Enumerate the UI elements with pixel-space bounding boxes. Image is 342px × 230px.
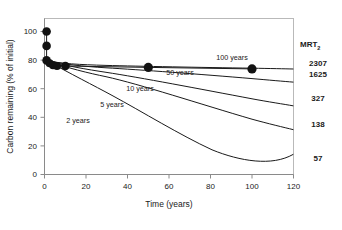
mrt-value: 138 — [311, 120, 325, 129]
y-tick-label: 80 — [28, 56, 37, 65]
curve-label-50-years: 50 years — [166, 68, 194, 77]
mrt-header-text: MRT — [300, 40, 317, 49]
mrt-header-subscript: 2 — [317, 45, 320, 51]
x-tick-label: 60 — [165, 182, 174, 191]
mrt-value: 1625 — [309, 70, 327, 79]
y-tick-label: 60 — [28, 85, 37, 94]
data-point-marker — [53, 62, 61, 70]
curve-label-2-years: 2 years — [66, 116, 90, 125]
y-tick-label: 40 — [28, 113, 37, 122]
data-point-marker — [42, 27, 51, 36]
curve-label-10-years: 10 years — [126, 84, 154, 93]
y-tick-label: 0 — [33, 170, 38, 179]
mrt-value: 327 — [311, 94, 325, 103]
curve-label-100-years: 100 years — [216, 53, 248, 62]
x-tick-label: 20 — [82, 182, 91, 191]
x-tick-label: 0 — [42, 182, 47, 191]
y-axis-title: Carbon remaining (% of initial) — [5, 39, 15, 153]
mrt-value: 2307 — [309, 59, 327, 68]
x-tick-label: 80 — [206, 182, 215, 191]
x-axis-title: Time (years) — [145, 199, 193, 209]
y-tick-label: 20 — [28, 142, 37, 151]
data-point-marker — [61, 62, 70, 71]
data-point-marker — [42, 42, 51, 51]
data-point-marker — [144, 63, 153, 72]
data-point-marker — [247, 64, 256, 73]
curve-label-5-years: 5 years — [100, 100, 124, 109]
y-tick-label: 100 — [24, 27, 38, 36]
carbon-decay-chart-figure: 0 20 40 60 80 100 0 20 40 60 80 100 120 — [0, 0, 342, 230]
x-tick-label: 120 — [287, 182, 301, 191]
mrt-value: 57 — [314, 154, 323, 163]
x-tick-label: 100 — [245, 182, 259, 191]
x-tick-label: 40 — [123, 182, 132, 191]
chart-svg: 0 20 40 60 80 100 0 20 40 60 80 100 120 — [0, 0, 342, 230]
chart-background — [0, 0, 342, 230]
